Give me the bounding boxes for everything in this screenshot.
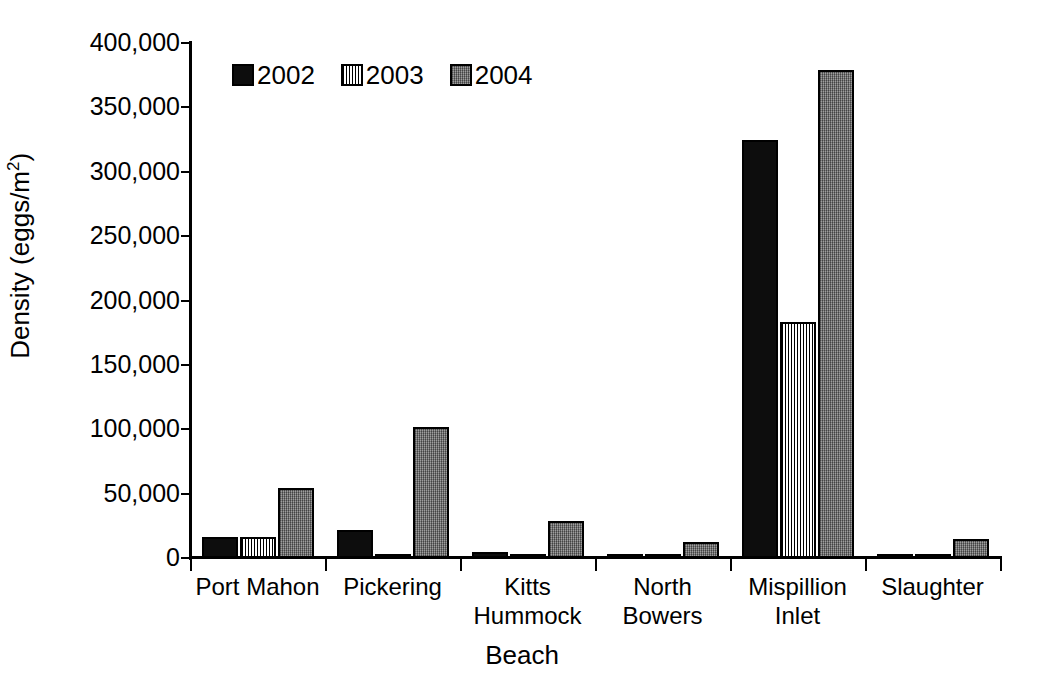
bar-slaughter-2002 [877,554,913,558]
y-axis-tick-label: 250,000 [15,223,180,248]
y-axis-tick-label: 300,000 [15,159,180,184]
x-axis-category-label: KittsHummock [460,572,595,630]
x-axis-category-label: Slaughter [865,572,1000,601]
legend-label-2003: 2003 [366,62,424,88]
x-axis-category-label: Pickering [325,572,460,601]
legend-swatch-2002 [232,64,254,86]
bar-slaughter-2004 [953,539,989,558]
y-axis-tick-label: 0 [15,545,180,570]
bar-port-mahon-2002 [202,537,238,558]
y-axis-tick-label: 100,000 [15,416,180,441]
x-axis-tick [460,558,462,571]
category-label-line: Inlet [730,601,865,630]
legend-label-2004: 2004 [475,62,533,88]
category-label-line: Mispillion [730,572,865,601]
x-axis-category-label: MispillionInlet [730,572,865,630]
bar-kitts-hummock-2002 [472,552,508,558]
y-axis-tick [181,42,191,44]
category-label-line: Slaughter [865,572,1000,601]
bar-north-bowers-2003 [645,554,681,558]
x-axis-category-label: NorthBowers [595,572,730,630]
y-axis-tick [181,428,191,430]
category-label-line: Pickering [325,572,460,601]
bar-pickering-2002 [337,530,373,558]
y-axis-tick [181,300,191,302]
x-axis-tick [190,558,192,571]
bar-chart-figure: Density (eggs/m2) Beach 050,000100,00015… [0,0,1044,698]
legend-swatch-2004 [450,64,472,86]
legend-label-2002: 2002 [257,62,315,88]
x-axis-tick [325,558,327,571]
x-axis-tick [730,558,732,571]
y-axis-tick-label: 400,000 [15,30,180,55]
bar-port-mahon-2003 [240,537,276,558]
legend-item-2003: 2003 [341,62,424,88]
bar-slaughter-2003 [915,554,951,558]
y-axis-tick [181,171,191,173]
y-axis-tick [181,235,191,237]
bar-north-bowers-2004 [683,542,719,558]
category-label-line: North [595,572,730,601]
legend-item-2004: 2004 [450,62,533,88]
legend-item-2002: 2002 [232,62,315,88]
bar-mispillion-inlet-2004 [818,70,854,558]
legend-swatch-2003 [341,64,363,86]
x-axis-tick [595,558,597,571]
category-label-line: Port Mahon [190,572,325,601]
bar-north-bowers-2002 [607,554,643,558]
x-axis-tick [1000,558,1002,571]
y-axis-tick-label: 50,000 [15,481,180,506]
y-axis-tick [181,493,191,495]
category-label-line: Hummock [460,601,595,630]
y-axis-tick-label: 200,000 [15,288,180,313]
y-axis-tick [181,106,191,108]
y-axis-tick-label: 350,000 [15,94,180,119]
chart-legend: 200220032004 [232,62,533,88]
bar-kitts-hummock-2003 [510,554,546,558]
bar-pickering-2003 [375,554,411,558]
x-axis-tick [865,558,867,571]
y-axis-title-text: Density (eggs/m [5,171,35,359]
bar-kitts-hummock-2004 [548,521,584,558]
y-axis-tick [181,364,191,366]
bar-mispillion-inlet-2002 [742,140,778,558]
bar-pickering-2004 [413,427,449,558]
y-axis-tick-label: 150,000 [15,352,180,377]
x-axis-title: Beach [0,640,1044,671]
bar-mispillion-inlet-2003 [780,322,816,558]
category-label-line: Bowers [595,601,730,630]
bar-port-mahon-2004 [278,488,314,558]
x-axis-category-label: Port Mahon [190,572,325,601]
category-label-line: Kitts [460,572,595,601]
plot-area: 050,000100,000150,000200,000250,000300,0… [190,43,1000,558]
